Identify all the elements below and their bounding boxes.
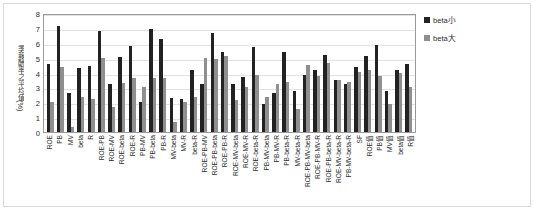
bar [173,122,176,132]
bar [50,102,53,132]
bar-group [76,15,86,132]
bar [235,100,238,132]
bar-group [260,15,270,132]
bar [91,99,94,132]
bar-group [394,15,404,132]
x-tick-label: PB [56,135,63,144]
x-tick-slot: ROE-PB-beta [209,134,219,212]
bar [378,76,381,132]
bar-group [189,15,199,132]
bar-group [168,15,178,132]
x-tick-label: SF [355,135,362,143]
x-tick-label: ROE-PB-beta-R [324,135,331,182]
chart-legend: beta小beta大 [424,14,524,50]
bar-group [240,15,250,132]
bar-group [353,15,363,132]
bar-group [363,15,373,132]
x-tick-label: ROE-PB-R [221,135,228,167]
bar-group [178,15,188,132]
bar-group [137,15,147,132]
bar [153,78,156,132]
bar-chart-figure: 季報酬率之平均值(%) 012345678 ROEPBMVbetaRROE-PB… [0,0,534,213]
legend-label: beta小 [433,14,456,25]
x-tick-slot: MV-R [178,134,188,212]
bar-group [66,15,76,132]
x-tick-label: MV-beta-R [293,135,300,167]
bar-group [219,15,229,132]
bar-group [301,15,311,132]
x-tick-label: ROE-beta-R [252,135,259,171]
x-tick-slot: MV [65,134,75,212]
bar [255,75,258,132]
bar [358,72,361,132]
x-tick-slot: ROE-PB-R [219,134,229,212]
x-tick-label: ROE-PB-MV [200,135,207,172]
x-tick-slot: MV-beta-R [292,134,302,212]
x-tick-label: ROE值 [365,135,372,156]
bar-group [291,15,301,132]
bar [214,59,217,132]
x-tick-slot: R值 [405,134,415,212]
legend-label: beta大 [433,32,456,43]
x-tick-slot: ROE-beta-R [250,134,260,212]
y-axis-title: 季報酬率之平均值(%) [8,16,24,140]
x-tick-slot: ROE-R [127,134,137,212]
x-tick-slot: MV值 [384,134,394,212]
y-axis-tick-labels: 012345678 [26,13,40,133]
bar-group [158,15,168,132]
x-tick-label: PB-MV-beta-R [345,135,352,178]
x-tick-slot: SF [353,134,363,212]
bar-group [250,15,260,132]
y-tick-label: 4 [26,69,40,78]
legend-item: beta大 [424,32,524,43]
bar [265,97,268,132]
y-tick-label: 8 [26,10,40,19]
x-tick-label: ROE-PB [97,135,104,160]
bar-group [342,15,352,132]
bar-group [373,15,383,132]
y-tick-label: 0 [26,129,40,138]
y-tick-label: 5 [26,54,40,63]
x-tick-slot: PB-MV [137,134,147,212]
x-tick-slot: PB-beta [147,134,157,212]
bar [122,83,125,132]
x-tick-slot: beta-R [188,134,198,212]
bar [101,58,104,132]
bar-group [117,15,127,132]
x-tick-slot: ROE-MV-beta-R [333,134,343,212]
x-tick-slot: ROE-MV-beta [230,134,240,212]
x-tick-slot: PB-beta-R [281,134,291,212]
x-tick-label: R值 [407,135,414,147]
x-tick-slot: ROE-PB-beta-R [322,134,332,212]
x-tick-slot: PB值 [374,134,384,212]
bar-group [404,15,414,132]
x-tick-label: MV-beta [169,135,176,160]
x-tick-slot: beta值 [395,134,405,212]
x-tick-slot: PB-MV-beta-R [343,134,353,212]
bar [296,109,299,132]
x-tick-label: ROE-PB-MV-R [314,135,321,179]
x-tick-label: beta值 [396,135,403,155]
bar-group [332,15,342,132]
bar [71,127,74,132]
x-tick-slot: ROE [44,134,54,212]
bar-groups [44,15,415,132]
x-tick-slot: PB [54,134,64,212]
x-tick-label: PB-MV-beta [262,135,269,171]
x-tick-label: ROE-MV-R [242,135,249,168]
bar-group [230,15,240,132]
x-axis-tick-labels: ROEPBMVbetaRROE-PBROE-MVROE-betaROE-RPB-… [43,134,416,212]
y-tick-label: 7 [26,24,40,33]
x-tick-label: ROE-MV-beta [231,135,238,176]
x-tick-slot: R [85,134,95,212]
bar [245,87,248,132]
x-tick-label: R [87,135,94,140]
x-tick-label: PB-R [159,135,166,151]
x-tick-label: PB-MV-R [273,135,280,162]
x-tick-label: MV [66,135,73,145]
bar [224,56,227,132]
bar-group [55,15,65,132]
x-tick-label: PB值 [376,135,383,151]
x-tick-label: ROE-PB-beta [211,135,218,175]
x-tick-slot: PB-MV-R [271,134,281,212]
